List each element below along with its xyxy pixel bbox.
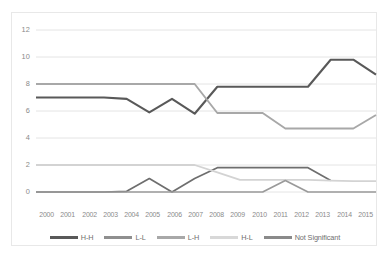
x-tick-label-2005: 2005 — [143, 209, 163, 223]
legend-swatch-icon — [104, 236, 132, 239]
legend-label: Not Significant — [295, 233, 341, 242]
series-line-not-significant — [36, 181, 376, 192]
legend-item-l-h[interactable]: L-H — [157, 233, 199, 242]
chart-container: 12 10 8 6 4 2 0 200020012002200320042005… — [11, 12, 377, 246]
series-lines — [36, 60, 376, 192]
legend-label: H-L — [241, 233, 252, 242]
legend-label: L-L — [135, 233, 145, 242]
x-tick-label-2009: 2009 — [228, 209, 248, 223]
legend-swatch-icon — [210, 236, 238, 239]
legend-item-h-l[interactable]: H-L — [210, 233, 252, 242]
x-tick-label-2015: 2015 — [355, 209, 375, 223]
legend-label: H-H — [81, 233, 94, 242]
x-tick-label-2000: 2000 — [36, 209, 56, 223]
legend-swatch-icon — [264, 236, 292, 239]
legend-item-not-significant[interactable]: Not Significant — [264, 233, 341, 242]
legend-swatch-icon — [157, 236, 185, 239]
legend-label: L-H — [188, 233, 199, 242]
gridlines — [36, 30, 376, 192]
x-tick-label-2006: 2006 — [164, 209, 184, 223]
x-tick-label-2008: 2008 — [206, 209, 226, 223]
x-tick-label-2007: 2007 — [185, 209, 205, 223]
legend-item-l-l[interactable]: L-L — [104, 233, 145, 242]
x-tick-label-2011: 2011 — [270, 209, 290, 223]
series-line-l-h — [36, 84, 376, 129]
series-line-h-h — [36, 60, 376, 114]
x-tick-label-2002: 2002 — [79, 209, 99, 223]
x-tick-label-2003: 2003 — [100, 209, 120, 223]
chart-legend: H-HL-LL-HH-LNot Significant — [12, 229, 378, 245]
x-tick-label-2012: 2012 — [291, 209, 311, 223]
legend-swatch-icon — [50, 236, 78, 239]
x-tick-label-2013: 2013 — [313, 209, 333, 223]
x-tick-label-2004: 2004 — [121, 209, 141, 223]
x-tick-label-2001: 2001 — [58, 209, 78, 223]
x-axis: 2000200120022003200420052006200720082009… — [36, 209, 376, 223]
legend-item-h-h[interactable]: H-H — [50, 233, 94, 242]
x-tick-label-2010: 2010 — [249, 209, 269, 223]
plot-area: 12 10 8 6 4 2 0 200020012002200320042005… — [12, 13, 378, 247]
x-tick-label-2014: 2014 — [334, 209, 354, 223]
